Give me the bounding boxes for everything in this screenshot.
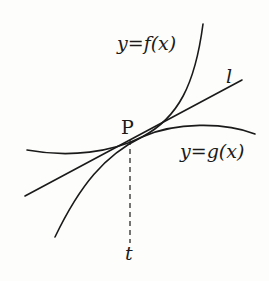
diagram-canvas: y=f(x) l P y=g(x) t	[0, 0, 269, 281]
label-point-p: P	[121, 116, 134, 138]
label-g-curve: y=g(x)	[179, 140, 244, 162]
label-line-l: l	[226, 65, 232, 87]
label-x-mark-t: t	[125, 242, 133, 264]
label-f-curve: y=f(x)	[116, 32, 176, 54]
tangent-line-l	[25, 80, 242, 196]
diagram-svg: y=f(x) l P y=g(x) t	[0, 0, 269, 281]
